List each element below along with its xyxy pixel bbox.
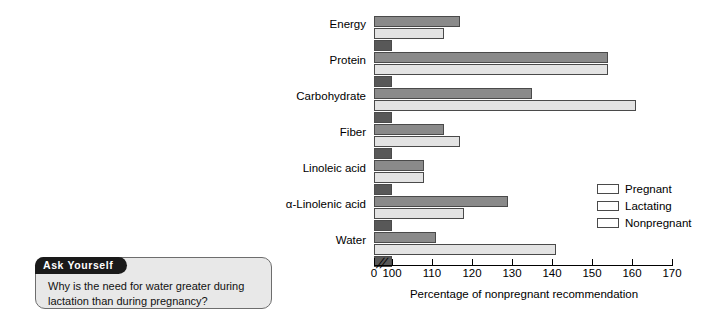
bar-lactating [374,100,636,111]
x-axis-tick-label: 120 [457,267,487,279]
legend-item: Lactating [597,198,692,213]
legend-item: Nonpregnant [597,215,692,230]
legend: Pregnant Lactating Nonpregnant [597,181,692,232]
x-axis-line [374,265,673,266]
bar-pregnant [374,16,460,27]
bar-nonpregnant [374,40,392,51]
category-label: Water [336,234,366,246]
legend-swatch-pregnant [597,184,619,194]
category-label: Energy [330,18,366,30]
x-axis-tick [632,259,633,265]
x-axis-tick-label: 100 [377,267,407,279]
bar-pregnant [374,52,608,63]
bar-pregnant [374,124,444,135]
bar-nonpregnant [374,184,392,195]
category-label: Protein [330,54,366,66]
x-axis-tick-label: 140 [537,267,567,279]
bar-lactating [374,244,556,255]
category-label: Fiber [340,126,366,138]
bar-nonpregnant [374,220,392,231]
bar-pregnant [374,232,436,243]
x-axis-label: Percentage of nonpregnant recommendation [374,288,674,300]
ask-yourself-tab: Ask Yourself [35,257,127,274]
x-axis-tick-label: 110 [417,267,447,279]
bar-lactating [374,208,464,219]
legend-swatch-lactating [597,201,619,211]
bar-lactating [374,172,424,183]
bar-nonpregnant [374,148,392,159]
bar-lactating [374,28,444,39]
bar-pregnant [374,88,532,99]
x-axis-tick [512,259,513,265]
legend-label: Lactating [625,200,672,212]
x-axis-tick [432,259,433,265]
x-axis-tick-label: 160 [617,267,647,279]
x-axis-tick [592,259,593,265]
x-axis-tick [672,259,673,265]
bar-nonpregnant [374,112,392,123]
ask-yourself-question: Why is the need for water greater during… [48,279,266,308]
legend-label: Nonpregnant [625,217,692,229]
bar-lactating [374,64,608,75]
x-axis-tick [552,259,553,265]
bar-pregnant [374,160,424,171]
bar-lactating [374,136,460,147]
x-axis-tick-label: 150 [577,267,607,279]
legend-label: Pregnant [625,183,672,195]
x-axis-tick [392,259,393,265]
bar-nonpregnant [374,76,392,87]
category-label: α-Linolenic acid [286,198,366,210]
bar-pregnant [374,196,508,207]
x-axis-tick-label: 170 [657,267,687,279]
legend-item: Pregnant [597,181,692,196]
legend-swatch-nonpregnant [597,218,619,228]
category-label: Linoleic acid [303,162,366,174]
category-label: Carbohydrate [296,90,366,102]
x-axis-tick-label: 130 [497,267,527,279]
x-axis-tick [472,259,473,265]
